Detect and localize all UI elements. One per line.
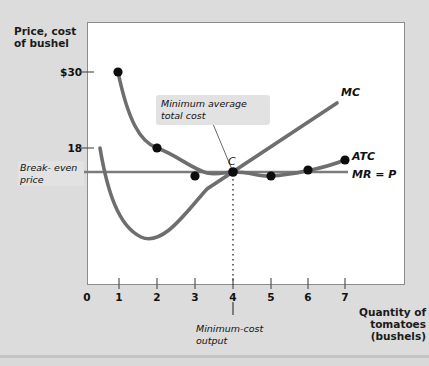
- mr-p-line-label: MR = P: [352, 168, 396, 181]
- atc-point-q6: [303, 165, 312, 174]
- callout-minimum-average-total-cost: Minimum average total cost: [156, 95, 270, 125]
- point-c-label: C: [228, 155, 236, 168]
- figure-panel: Price, cost of bushel Quantity of tomato…: [0, 0, 429, 358]
- atc-point-q1: [113, 67, 122, 76]
- minimum-cost-output-note: Minimum-cost output: [196, 323, 296, 346]
- atc-point-q5: [266, 171, 275, 180]
- atc-point-q7: [340, 155, 349, 164]
- x-axis-ticks: [119, 278, 345, 289]
- mc-curve-label: MC: [341, 86, 360, 99]
- atc-curve-label: ATC: [352, 150, 375, 163]
- breakeven-price-label: Break- even price: [18, 161, 84, 186]
- y-axis-ticks: [80, 72, 94, 148]
- atc-point-q4-c: [228, 167, 238, 177]
- atc-point-q2: [152, 143, 161, 152]
- atc-point-q3: [190, 171, 199, 180]
